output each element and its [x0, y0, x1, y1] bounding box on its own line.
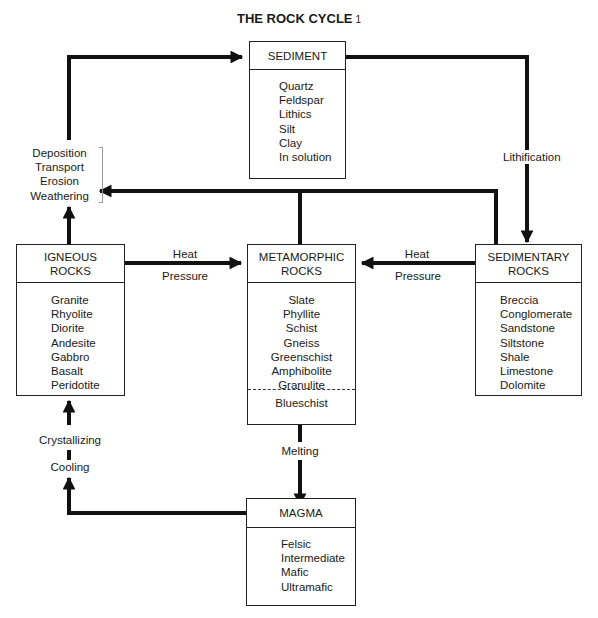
sediment-header: SEDIMENT	[250, 42, 345, 70]
process-deposition: Deposition	[12, 146, 107, 160]
label-pressure-right: Pressure	[391, 269, 445, 283]
sediment-box: SEDIMENT Quartz Feldspar Lithics Silt Cl…	[249, 41, 346, 179]
igneous-box: IGNEOUS ROCKS Granite Rhyolite Diorite A…	[16, 244, 125, 396]
arrow-deposition-to-sediment	[69, 57, 242, 140]
list-item: Andesite	[51, 336, 124, 350]
metamorphic-header: METAMORPHIC ROCKS	[248, 245, 355, 283]
list-item: Phyllite	[248, 307, 355, 321]
sediment-title: SEDIMENT	[268, 49, 327, 63]
list-item: Slate	[248, 293, 355, 307]
label-melting: Melting	[276, 444, 324, 458]
list-item: Amphibolite	[248, 364, 355, 378]
metamorphic-list: Slate Phyllite Schist Gneiss Greenschist…	[248, 283, 355, 384]
list-item: Gabbro	[51, 350, 124, 364]
arrow-cooling	[69, 478, 246, 513]
list-item: Schist	[248, 321, 355, 335]
list-item: Feldspar	[279, 93, 345, 107]
list-item: Dolomite	[500, 378, 581, 392]
sedimentary-title-2: ROCKS	[508, 264, 549, 278]
list-item: Gneiss	[248, 336, 355, 350]
sedimentary-title-1: SEDIMENTARY	[487, 250, 569, 264]
list-item: Clay	[279, 136, 345, 150]
list-item: Peridotite	[51, 378, 124, 392]
list-item: Rhyolite	[51, 307, 124, 321]
process-weathering: Weathering	[12, 189, 107, 203]
list-item: Lithics	[279, 107, 345, 121]
label-heat-right: Heat	[397, 247, 437, 261]
sedimentary-box: SEDIMENTARY ROCKS Breccia Conglomerate S…	[475, 244, 582, 396]
list-item: Mafic	[281, 565, 355, 579]
process-transport: Transport	[12, 160, 107, 174]
label-lithification: Lithification	[503, 150, 551, 164]
sedimentary-header: SEDIMENTARY ROCKS	[476, 245, 581, 283]
list-item: Shale	[500, 350, 581, 364]
list-item: Sandstone	[500, 321, 581, 335]
metamorphic-title-2: ROCKS	[281, 264, 322, 278]
arrow-lithification	[346, 57, 527, 242]
list-item: Siltstone	[500, 336, 581, 350]
metamorphic-box: METAMORPHIC ROCKS Slate Phyllite Schist …	[247, 244, 356, 425]
igneous-title-1: IGNEOUS	[44, 250, 97, 264]
list-item: Granite	[51, 293, 124, 307]
sedimentary-list: Breccia Conglomerate Sandstone Siltstone…	[476, 283, 581, 392]
list-item: Silt	[279, 122, 345, 136]
igneous-header: IGNEOUS ROCKS	[17, 245, 124, 283]
magma-header: MAGMA	[247, 499, 355, 528]
label-pressure-left: Pressure	[158, 269, 212, 283]
label-heat-left: Heat	[165, 247, 205, 261]
label-cooling: Cooling	[45, 460, 95, 474]
list-item: Quartz	[279, 79, 345, 93]
list-item: Intermediate	[281, 551, 355, 565]
surface-processes-bracket	[99, 147, 103, 203]
list-item: In solution	[279, 150, 345, 164]
surface-processes: Deposition Transport Erosion Weathering	[12, 146, 107, 203]
igneous-title-2: ROCKS	[50, 264, 91, 278]
list-item: Ultramafic	[281, 580, 355, 594]
magma-title: MAGMA	[279, 506, 322, 520]
magma-box: MAGMA Felsic Intermediate Mafic Ultramaf…	[246, 498, 356, 606]
magma-list: Felsic Intermediate Mafic Ultramafic	[247, 528, 355, 594]
metamorphic-title-1: METAMORPHIC	[259, 250, 344, 264]
list-item: Felsic	[281, 537, 355, 551]
list-item: Breccia	[500, 293, 581, 307]
list-item: Greenschist	[248, 350, 355, 364]
metamorphic-extra: Blueschist	[248, 390, 355, 410]
list-item: Basalt	[51, 364, 124, 378]
label-crystallizing: Crystallizing	[38, 433, 102, 447]
list-item: Limestone	[500, 364, 581, 378]
sediment-list: Quartz Feldspar Lithics Silt Clay In sol…	[250, 70, 345, 164]
list-item: Conglomerate	[500, 307, 581, 321]
list-item: Diorite	[51, 321, 124, 335]
process-erosion: Erosion	[12, 174, 107, 188]
igneous-list: Granite Rhyolite Diorite Andesite Gabbro…	[17, 283, 124, 392]
